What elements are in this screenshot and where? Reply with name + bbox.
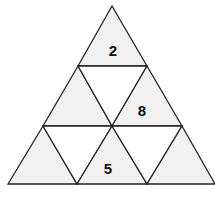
triangle-puzzle: 2 8 5 [0,0,215,197]
cell-label-row3-middle: 5 [104,160,112,177]
cell-label-top: 2 [109,42,117,59]
cell-label-row2-right: 8 [138,102,146,119]
